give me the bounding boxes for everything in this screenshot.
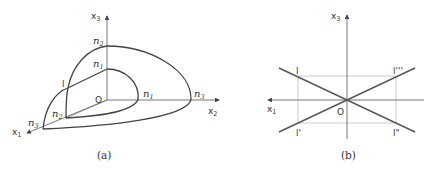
- n2-curve: [66, 88, 68, 118]
- figure-canvas: x3 x2 x1 O n2 n1 n1 n3 n2 n3 l (a) x3 x1…: [0, 0, 433, 171]
- l-triple-prime-label: l''': [393, 66, 403, 76]
- x1-axis-label-b: x1: [267, 104, 276, 116]
- inner-curve-top: [107, 69, 138, 100]
- n1-top-label: n1: [93, 58, 104, 71]
- caption-a: (a): [97, 149, 111, 161]
- l-label-b: l: [296, 66, 299, 76]
- x1-axis-label-a: x1: [12, 127, 21, 139]
- x3-axis-label-a: x3: [91, 11, 100, 23]
- caption-b: (b): [341, 149, 356, 161]
- figure-b: x3 x1 O l l' l" l''' (b): [267, 11, 424, 161]
- n2-top-label: n2: [93, 35, 104, 48]
- figure-a: x3 x2 x1 O n2 n1 n1 n3 n2 n3 l (a): [12, 11, 219, 161]
- x3-axis-label-b: x3: [331, 11, 340, 23]
- n3-right-label: n3: [194, 88, 205, 101]
- origin-label-b: O: [337, 107, 344, 117]
- n2-left-label: n2: [52, 108, 63, 121]
- n3-left-label: n3: [28, 117, 39, 130]
- origin-label-a: O: [95, 95, 102, 105]
- n1-right-label: n1: [143, 88, 154, 101]
- l-label-a: l: [62, 79, 65, 89]
- l-double-prime-label: l": [393, 128, 400, 138]
- l-prime-label: l': [296, 128, 301, 138]
- x2-axis-label-a: x2: [208, 106, 217, 118]
- outer-curve-bottom: [43, 100, 191, 129]
